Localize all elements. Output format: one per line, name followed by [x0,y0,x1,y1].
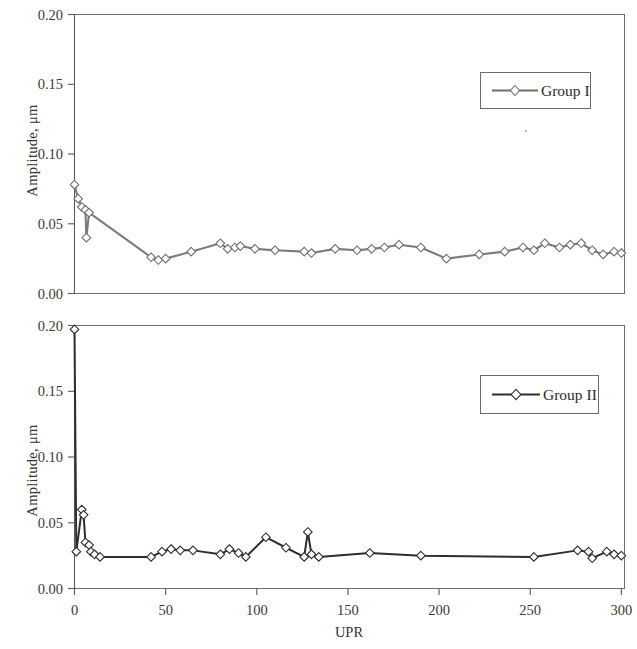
data-series-group-i [70,180,625,264]
data-point-marker [530,553,539,562]
data-point-marker [573,546,582,555]
y-ticks-top [68,15,75,294]
plot-frame-bottom [75,326,625,589]
x-tick-label: 100 [246,602,268,618]
series-line [75,329,622,558]
y-axis-title-bottom: Amplitude, μm [24,401,41,541]
series-line [75,185,622,260]
data-point-marker [417,551,426,560]
data-point-marker [225,545,234,554]
data-point-marker [366,549,375,558]
data-point-marker [395,240,404,249]
print-speck [525,130,527,132]
data-point-marker [566,240,575,249]
legend-group-i: Group I [481,73,591,109]
data-point-marker [187,247,196,256]
data-point-marker [417,243,426,252]
y-tick-label-bottom-2: 0.10 [38,449,63,465]
y-tick-label-top-0: 0.20 [38,7,63,23]
x-ticks-bottom [75,589,622,596]
data-series-group-ii [70,325,625,562]
x-tick-label: 150 [337,602,359,618]
chart-panel-group-ii: Amplitude, μm 0.20 0.15 0.10 0.05 0.00 [0,310,637,649]
y-tick-label-top-2: 0.10 [38,146,63,162]
data-point-marker [519,243,528,252]
data-point-marker [300,247,309,256]
chart-svg-group-ii: 0.20 0.15 0.10 0.05 0.00 050100150200250… [0,310,637,649]
y-tick-label-top-1: 0.15 [38,76,63,92]
data-point-marker [304,528,313,537]
chart-panel-group-i: Amplitude, μm 0.20 0.15 0.10 0.05 0.00 [0,0,637,310]
data-point-marker [282,543,291,552]
y-tick-label-top-4: 0.00 [38,286,63,302]
legend-label-group-i: Group I [541,82,590,99]
data-point-marker [475,250,484,259]
figure-root: Amplitude, μm 0.20 0.15 0.10 0.05 0.00 [0,0,637,649]
data-point-marker [331,245,340,254]
data-point-marker [70,325,79,334]
legend-group-ii: Group II [481,376,599,414]
y-tick-label-bottom-3: 0.05 [38,515,63,531]
data-point-marker [147,553,156,562]
y-tick-label-top-3: 0.05 [38,216,63,232]
y-axis-title-top: Amplitude, μm [24,81,41,221]
y-ticks-bottom [68,326,75,589]
data-point-marker [234,549,243,558]
data-point-marker [176,546,185,555]
data-point-marker [367,245,376,254]
data-point-marker [251,245,260,254]
data-point-marker [353,246,362,255]
data-point-marker [70,180,79,189]
y-tick-label-bottom-1: 0.15 [38,383,63,399]
data-point-marker [82,233,91,242]
data-point-marker [271,246,280,255]
y-tick-label-bottom-4: 0.00 [38,581,63,597]
data-point-marker [555,243,564,252]
chart-svg-group-i: 0.20 0.15 0.10 0.05 0.00 Group I [0,0,637,310]
data-point-marker [72,547,81,556]
data-point-marker [161,254,170,263]
x-tick-label: 50 [158,602,173,618]
data-point-marker [158,547,167,556]
y-tick-label-bottom-0: 0.20 [38,318,63,334]
data-point-marker [610,247,619,256]
data-point-marker [189,546,198,555]
x-tick-labels-bottom: 050100150200250300 [71,602,632,618]
x-tick-label: 300 [610,602,632,618]
data-point-marker [442,254,451,263]
legend-label-group-ii: Group II [543,386,597,403]
data-point-marker [307,249,316,258]
data-point-marker [380,243,389,252]
x-axis-title: UPR [335,624,364,640]
x-tick-label: 200 [428,602,450,618]
data-point-marker [500,247,509,256]
x-tick-label: 250 [519,602,541,618]
data-point-marker [599,250,608,259]
plot-frame-top [75,15,625,294]
x-tick-label: 0 [71,602,78,618]
data-point-marker [74,194,83,203]
data-point-marker [216,550,225,559]
data-point-marker [167,545,176,554]
